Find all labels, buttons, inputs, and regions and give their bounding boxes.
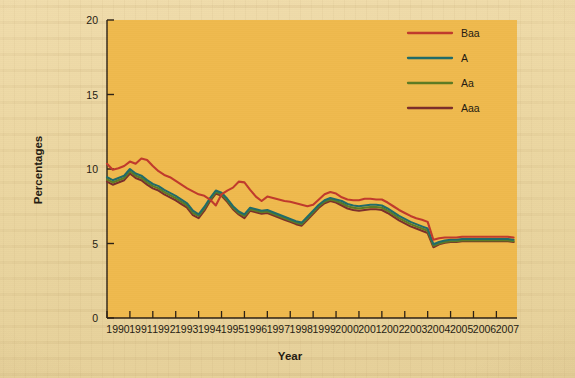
legend-label-aaa: Aaa: [461, 102, 480, 114]
x-tick-label: 2007: [496, 323, 520, 335]
x-tick-label: 2000: [335, 323, 359, 335]
plot-area-background: [107, 20, 517, 318]
x-tick-label: 2003: [404, 323, 428, 335]
legend-label-a: A: [461, 52, 468, 64]
y-tick-label: 20: [86, 14, 98, 26]
x-tick-label: 1994: [198, 323, 222, 335]
y-axis-title: Percentages: [32, 136, 44, 204]
x-tick-label: 1992: [152, 323, 176, 335]
x-tick-label: 2002: [381, 323, 405, 335]
x-tick-label: 1998: [290, 323, 314, 335]
x-tick-label: 1991: [129, 323, 153, 335]
x-tick-label: 1999: [312, 323, 336, 335]
x-tick-label: 1990: [106, 323, 130, 335]
x-axis-tick-labels: 1990199119921993199419951996199719981999…: [106, 323, 519, 335]
y-tick-label: 15: [86, 89, 98, 101]
legend-label-aa: Aa: [461, 77, 474, 89]
x-tick-label: 2006: [473, 323, 497, 335]
x-axis-title: Year: [278, 350, 303, 362]
scanned-page: 05101520 1990199119921993199419951996199…: [0, 0, 575, 378]
x-tick-label: 2001: [358, 323, 382, 335]
chart-svg: 05101520 1990199119921993199419951996199…: [0, 0, 575, 378]
y-tick-label: 10: [86, 163, 98, 175]
y-tick-label: 5: [92, 238, 98, 250]
x-tick-label: 1993: [175, 323, 199, 335]
x-tick-label: 2004: [427, 323, 451, 335]
y-axis-tick-labels: 05101520: [86, 14, 98, 324]
line-chart-figure: 05101520 1990199119921993199419951996199…: [0, 0, 575, 378]
x-tick-label: 2005: [450, 323, 474, 335]
x-tick-label: 1995: [221, 323, 245, 335]
y-tick-label: 0: [92, 312, 98, 324]
legend-label-baa: Baa: [461, 27, 480, 39]
x-tick-label: 1996: [244, 323, 268, 335]
x-tick-label: 1997: [267, 323, 291, 335]
